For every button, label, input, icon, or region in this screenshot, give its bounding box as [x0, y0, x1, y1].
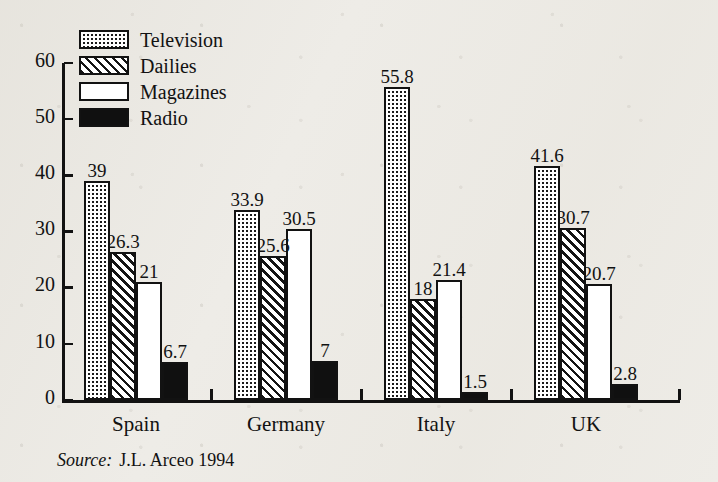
bar-value-label: 30.7 [556, 208, 589, 227]
x-tick-2 [510, 389, 513, 400]
bar-value-label: 21 [140, 262, 159, 281]
y-tick-20: 20 [64, 286, 73, 289]
y-tick-label-60: 60 [15, 50, 55, 70]
y-tick-label-30: 30 [15, 218, 55, 238]
y-tick-30: 30 [64, 230, 73, 233]
bar-value-label: 6.7 [163, 342, 187, 361]
bar-germany-magazines: 30.5 [286, 229, 312, 400]
bar-value-label: 39 [88, 161, 107, 180]
source-text: J.L. Arceo 1994 [119, 450, 234, 470]
bar-chart: Television Dailies Magazines Radio 01020… [0, 0, 718, 482]
bar-germany-dailies: 25.6 [260, 256, 286, 400]
y-tick-label-0: 0 [15, 387, 55, 407]
bar-italy-radio: 1.5 [462, 392, 488, 400]
bar-value-label: 30.5 [282, 209, 315, 228]
bar-value-label: 18 [414, 279, 433, 298]
x-label-italy: Italy [417, 414, 455, 435]
bar-value-label: 25.6 [256, 236, 289, 255]
bar-germany-radio: 7 [312, 361, 338, 400]
y-tick-label-50: 50 [15, 106, 55, 126]
x-label-uk: UK [571, 414, 601, 435]
bar-uk-radio: 2.8 [612, 384, 638, 400]
y-tick-label-20: 20 [15, 274, 55, 294]
legend-swatch-television-icon [79, 30, 129, 49]
bar-uk-television: 41.6 [534, 166, 560, 400]
bar-spain-magazines: 21 [136, 282, 162, 400]
y-tick-0: 0 [64, 399, 73, 402]
bar-value-label: 26.3 [106, 232, 139, 251]
bar-spain-dailies: 26.3 [110, 252, 136, 400]
plot-area: 0102030405060 3926.3216.733.925.630.5755… [62, 63, 680, 400]
bar-spain-radio: 6.7 [162, 362, 188, 400]
x-tick-3 [678, 389, 681, 400]
bar-italy-dailies: 18 [410, 299, 436, 400]
y-tick-label-40: 40 [15, 162, 55, 182]
source-note: Source:J.L. Arceo 1994 [57, 451, 234, 469]
y-tick-60: 60 [64, 62, 73, 65]
bar-italy-television: 55.8 [384, 87, 410, 400]
legend-label-television: Television [140, 30, 223, 50]
y-tick-50: 50 [64, 118, 73, 121]
bar-italy-magazines: 21.4 [436, 280, 462, 400]
y-tick-40: 40 [64, 174, 73, 177]
bar-value-label: 2.8 [613, 364, 637, 383]
x-label-spain: Spain [112, 414, 160, 435]
bar-spain-television: 39 [84, 181, 110, 400]
x-label-germany: Germany [247, 414, 325, 435]
y-tick-10: 10 [64, 343, 73, 346]
bar-value-label: 41.6 [530, 146, 563, 165]
bar-value-label: 20.7 [582, 264, 615, 283]
bar-germany-television: 33.9 [234, 210, 260, 400]
x-tick-0 [210, 389, 213, 400]
bar-value-label: 55.8 [380, 67, 413, 86]
x-axis-line [62, 400, 680, 403]
bar-uk-dailies: 30.7 [560, 228, 586, 400]
bar-value-label: 33.9 [230, 190, 263, 209]
y-tick-label-10: 10 [15, 331, 55, 351]
x-tick-1 [360, 389, 363, 400]
legend-item-television: Television [79, 27, 309, 52]
bar-value-label: 1.5 [463, 372, 487, 391]
bar-value-label: 7 [320, 341, 330, 360]
source-prefix: Source: [57, 450, 112, 470]
bar-value-label: 21.4 [432, 260, 465, 279]
bar-uk-magazines: 20.7 [586, 284, 612, 400]
